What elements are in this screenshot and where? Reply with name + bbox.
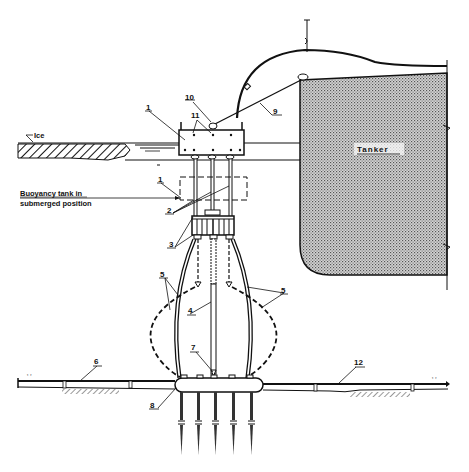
buoyancy-label-line2: submerged position [20,199,92,208]
callout-5-right: 5 [281,286,286,295]
buoyancy-tank-surface: 1 10 11 [145,93,244,155]
collar-assembly: 3 [167,210,234,249]
loading-system-diagram: Tanker 9 Ice [0,0,469,472]
callout-12: 12 [354,358,363,367]
ice-label: Ice [34,131,44,140]
pipeline-end-left-icon: ⇔ [25,370,33,379]
tanker-label: Tanker [357,145,389,154]
ice-sheet: Ice [18,131,300,165]
callout-2: 2 [167,206,172,215]
flexible-hoses: 5 5 [151,239,288,378]
callout-1-submerged: 1 [158,175,163,184]
callout-3: 3 [169,240,174,249]
anchor-piles [178,392,255,455]
pipeline-right: ⇔ 12 [263,358,450,397]
callout-5-left: 5 [160,270,165,279]
mooring-line: 9 [213,74,308,125]
callout-10: 10 [185,93,194,102]
pipeline-left: ⇔ 6 [18,357,175,394]
callout-7: 7 [191,343,196,352]
callout-11: 11 [191,111,200,120]
tanker: Tanker [300,60,450,290]
callout-1-top: 1 [146,103,151,112]
callout-9: 9 [273,107,278,116]
pipeline-end-right-icon: ⇔ [430,373,438,382]
callout-6: 6 [94,357,99,366]
callout-8: 8 [150,401,155,410]
central-riser: 4 [187,239,216,376]
buoyancy-label-line1: Buoyancy tank in [20,189,83,198]
callout-4: 4 [188,306,193,315]
